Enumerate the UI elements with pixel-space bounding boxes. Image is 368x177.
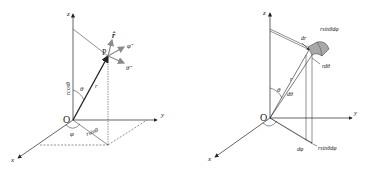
- x-axis: [18, 120, 73, 158]
- left-diagram: z y x O P r θ φ rcosθ rsinθ r̂ φ̂ θ̂: [10, 10, 165, 164]
- bottom-arc-pointer: [311, 143, 317, 146]
- origin-label: O: [260, 112, 267, 123]
- r-line-1: [270, 48, 310, 118]
- origin-label: O: [63, 114, 70, 125]
- rdtheta-pointer: [312, 58, 320, 64]
- z-axis-label: z: [262, 9, 266, 17]
- right-diagram: z y x O r θ dθ dφ dr rdθ rsinθdφ rsinθdφ: [207, 9, 358, 163]
- arc-top-label: rsinθdφ: [320, 26, 339, 32]
- phi-hat-label: φ̂: [127, 42, 134, 50]
- phi-label: φ: [70, 130, 74, 138]
- dtheta-label: dθ: [287, 91, 293, 97]
- arc-bottom-label: rsinθdφ: [318, 145, 337, 151]
- volume-element: [308, 42, 329, 56]
- rsin-label: rsinθ: [85, 127, 99, 137]
- rcos-label: rcosθ: [65, 82, 71, 95]
- r-line-2: [270, 52, 314, 118]
- r-label: r: [95, 83, 98, 89]
- rdtheta-label: rdθ: [322, 63, 330, 69]
- point-p-label: P: [102, 48, 107, 57]
- theta-label: θ: [277, 86, 281, 94]
- theta-hat-vector: [108, 56, 124, 63]
- y-dashed-line: [108, 120, 147, 145]
- y-axis-label: y: [160, 111, 165, 119]
- z-axis-label: z: [66, 10, 70, 18]
- z-proj-line-2: [270, 31, 312, 51]
- theta-hat-label: θ̂: [126, 64, 132, 72]
- spherical-coordinates-figure: z y x O P r θ φ rcosθ rsinθ r̂ φ̂ θ̂: [0, 0, 368, 177]
- r-hat-label: r̂: [112, 31, 116, 40]
- x-axis: [215, 118, 270, 157]
- dr-label: dr: [301, 35, 307, 41]
- x-axis-label: x: [207, 155, 212, 163]
- bottom-arc-segment: [306, 140, 312, 143]
- y-axis-label: y: [353, 109, 358, 117]
- r-vector: [73, 56, 108, 120]
- theta-label: θ: [80, 85, 84, 93]
- x-axis-label: x: [10, 156, 15, 164]
- dphi-label: dφ: [297, 146, 304, 152]
